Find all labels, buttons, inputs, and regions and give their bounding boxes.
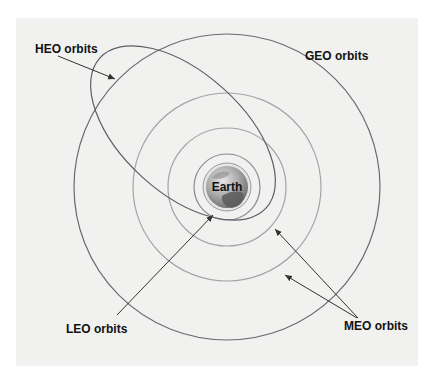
leo-arrow bbox=[117, 215, 213, 315]
leo-label: LEO orbits bbox=[66, 322, 128, 336]
meo-arrow-inner bbox=[275, 229, 358, 318]
meo-arrow-outer bbox=[285, 275, 357, 318]
meo-label: MEO orbits bbox=[344, 319, 408, 333]
geo-label: GEO orbits bbox=[305, 49, 369, 63]
earth: Earth bbox=[203, 163, 251, 211]
orbit-diagram: Earth HEO orbits GEO orbits LEO orbits M… bbox=[0, 0, 436, 380]
heo-label: HEO orbits bbox=[35, 42, 98, 56]
heo-arrow bbox=[58, 56, 115, 79]
earth-label: Earth bbox=[212, 180, 243, 194]
